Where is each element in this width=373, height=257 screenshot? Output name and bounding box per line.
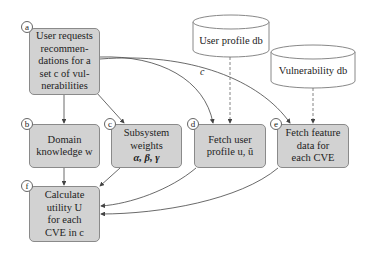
edge-a-e	[100, 58, 290, 123]
node-a-line: set c of vul-	[36, 68, 93, 81]
node-c-subsystem-weights: Subsystem weights α, β, γ	[111, 124, 182, 168]
node-a-user-requests: User requests recommen- dations for a se…	[29, 28, 100, 95]
node-f-line: Calculate	[45, 189, 85, 202]
node-d-tag: d	[187, 118, 199, 130]
node-f-calculate-utility: Calculate utility U for each CVE in c	[29, 186, 100, 242]
node-d-line: Fetch user	[207, 134, 253, 147]
node-d-fetch-user-profile: Fetch user profile u, û	[194, 124, 266, 168]
node-c-line: Subsystem	[124, 127, 170, 140]
edge-a-d	[100, 57, 213, 123]
node-c-line: weights	[124, 140, 170, 153]
node-c-line: α, β, γ	[124, 152, 170, 165]
node-a-line: User requests	[36, 30, 93, 43]
node-e-tag: e	[270, 118, 282, 130]
node-e-line: data for	[285, 140, 340, 153]
node-b-tag: b	[21, 118, 33, 130]
node-a-line: recommen-	[36, 43, 93, 56]
node-b-line: Domain	[36, 134, 92, 147]
node-a-line: dations for a	[36, 55, 93, 68]
node-e-line: Fetch feature	[285, 127, 340, 140]
node-c-tag: c	[104, 118, 116, 130]
node-e-line: each CVE	[285, 152, 340, 165]
node-b-domain-knowledge: Domain knowledge w	[29, 124, 100, 168]
node-a-line: nerabilities	[36, 80, 93, 93]
node-f-line: CVE in c	[45, 227, 85, 240]
edge-label-c: c	[200, 66, 204, 77]
node-f-line: for each	[45, 214, 85, 227]
node-e-fetch-feature-data: Fetch feature data for each CVE	[277, 124, 349, 168]
edge-d-f	[101, 168, 196, 206]
node-b-line: knowledge w	[36, 146, 92, 159]
node-f-line: utility U	[45, 202, 85, 215]
node-a-tag: a	[21, 21, 33, 33]
user-profile-db-label: User profile db	[193, 35, 269, 46]
edge-e-f	[101, 168, 278, 214]
node-f-tag: f	[21, 180, 33, 192]
edge-c-f	[100, 168, 120, 186]
vulnerability-db-label: Vulnerability db	[271, 65, 355, 76]
node-d-line: profile u, û	[207, 146, 253, 159]
